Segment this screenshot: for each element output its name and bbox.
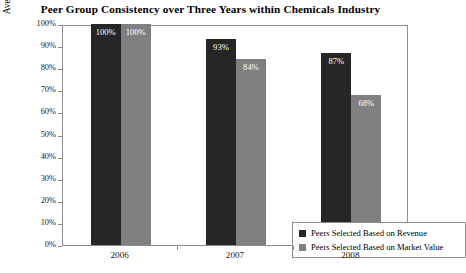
bar-value-label: 84% <box>236 62 266 72</box>
y-tick-label: 10% <box>10 218 56 227</box>
bar: 87% <box>321 53 351 245</box>
bar-value-label: 68% <box>351 98 381 108</box>
legend-swatch-icon <box>299 230 306 237</box>
y-tick-label: 70% <box>10 85 56 94</box>
x-tick-mark <box>177 246 178 250</box>
chart-title: Peer Group Consistency over Three Years … <box>0 3 421 15</box>
y-tick-label: 50% <box>10 130 56 139</box>
y-tick-label: 40% <box>10 152 56 161</box>
plot-area: 100%100%93%84%87%68% Peers Selected Base… <box>62 25 408 246</box>
x-tick-label: 2008 <box>310 250 390 260</box>
bar: 100% <box>121 24 151 245</box>
y-tick-label: 80% <box>10 63 56 72</box>
y-tick-label: 90% <box>10 41 56 50</box>
x-tick-label: 2007 <box>195 250 275 260</box>
y-tick-label: 20% <box>10 196 56 205</box>
legend-label: Peers Selected Based on Revenue <box>311 229 427 238</box>
y-tick-label: 60% <box>10 107 56 116</box>
bar: 84% <box>236 59 266 245</box>
y-tick-label: 30% <box>10 174 56 183</box>
y-tick-label: 100% <box>10 19 56 28</box>
bar-value-label: 100% <box>91 27 121 37</box>
bar-value-label: 87% <box>321 56 351 66</box>
x-tick-label: 2006 <box>80 250 160 260</box>
legend-swatch-icon <box>299 244 306 251</box>
bar-value-label: 93% <box>206 42 236 52</box>
bar-value-label: 100% <box>121 27 151 37</box>
y-tick: 0% <box>58 246 62 247</box>
y-tick-mark <box>58 246 62 247</box>
x-tick-mark <box>293 246 294 250</box>
legend-item: Peers Selected Based on Revenue <box>299 227 465 240</box>
bar: 100% <box>91 24 121 245</box>
bar: 93% <box>206 39 236 245</box>
y-tick-label: 0% <box>10 240 56 249</box>
